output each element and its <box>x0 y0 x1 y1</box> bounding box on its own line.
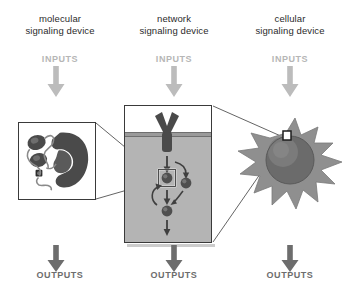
signaling-network-panel <box>124 105 212 243</box>
outputs-label-network: OUTPUTS <box>118 270 230 280</box>
outputs-label-cellular: OUTPUTS <box>237 270 343 280</box>
signaling-devices-figure: molecular signaling device network signa… <box>0 0 348 291</box>
zoom-selection-square <box>283 131 291 140</box>
protein-structure-box <box>18 122 96 200</box>
nucleus-sphere <box>266 136 314 184</box>
cell-illustration <box>232 110 348 222</box>
receptor-icon <box>155 112 179 152</box>
outputs-label-molecular: OUTPUTS <box>5 270 115 280</box>
outputs-arrow-network <box>163 245 185 273</box>
outputs-arrow-molecular <box>45 245 67 273</box>
outputs-arrow-cellular <box>279 245 301 273</box>
signaling-cascade-diagram <box>125 106 212 243</box>
protein-structure-icon <box>19 123 95 199</box>
